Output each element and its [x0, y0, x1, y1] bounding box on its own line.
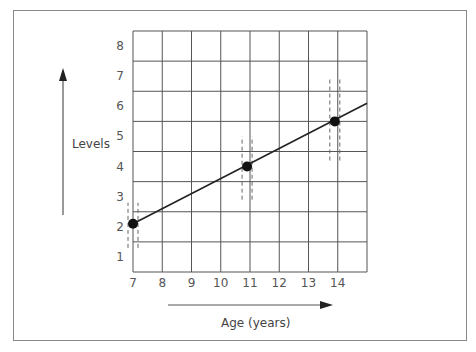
y-tick-label: 1	[116, 250, 124, 264]
chart-grid	[133, 31, 367, 272]
y-tick-label: 8	[116, 39, 124, 53]
y-tick-label: 6	[116, 99, 124, 113]
y-arrow-icon	[59, 68, 67, 215]
x-tick-label: 11	[242, 276, 257, 290]
x-tick-label: 10	[213, 276, 228, 290]
x-tick-label: 13	[301, 276, 316, 290]
y-tick-label: 2	[116, 220, 124, 234]
data-point	[128, 219, 138, 229]
y-tick-label: 3	[116, 190, 124, 204]
data-point	[330, 116, 340, 126]
line-chart: 12345678 7891011121314 Levels Age (years…	[0, 0, 476, 352]
x-tick-label: 7	[129, 276, 137, 290]
data-point	[242, 162, 252, 172]
x-tick-label: 14	[330, 276, 345, 290]
x-axis-ticks: 7891011121314	[129, 276, 345, 290]
x-tick-label: 9	[188, 276, 196, 290]
y-axis-ticks: 12345678	[116, 39, 124, 264]
y-tick-label: 5	[116, 129, 124, 143]
y-tick-label: 7	[116, 69, 124, 83]
data-series	[128, 103, 367, 229]
y-axis-label: Levels	[72, 137, 110, 151]
x-arrow-icon	[168, 301, 333, 309]
y-tick-label: 4	[116, 160, 124, 174]
x-tick-label: 8	[158, 276, 166, 290]
x-tick-label: 12	[272, 276, 287, 290]
x-axis-label: Age (years)	[221, 316, 290, 330]
